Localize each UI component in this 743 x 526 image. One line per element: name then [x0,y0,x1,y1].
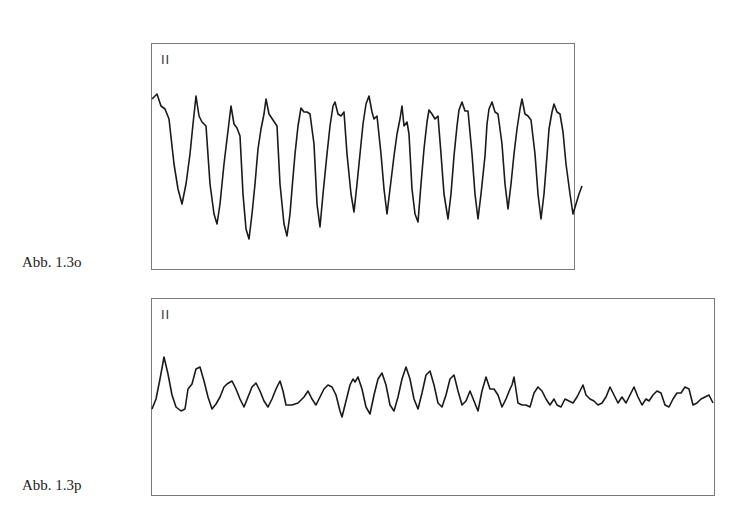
ecg-trace-line [152,94,582,239]
ecg-strip-panel-o: II [151,43,575,270]
ecg-waveform [152,299,716,497]
figure-caption: Abb. 1.3o [22,254,82,271]
ecg-waveform [152,44,576,271]
figure-caption: Abb. 1.3p [22,477,82,494]
ecg-strip-panel-p: II [151,298,715,496]
ecg-trace-line [152,357,713,417]
